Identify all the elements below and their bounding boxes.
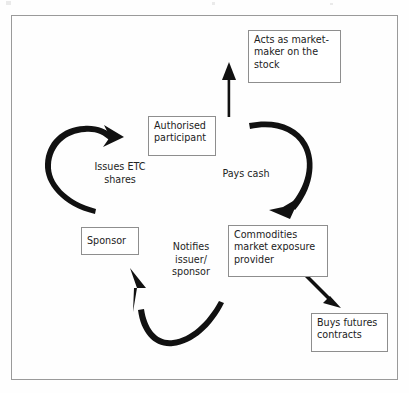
node-authorised-participant[interactable]: Authorised participant [148, 116, 216, 156]
edge-label-notifies-issuer-sponsor: Notifies issuer/ sponsor [155, 241, 227, 279]
diagram-canvas: Acts as market- maker on the stock Autho… [0, 0, 409, 393]
scan-artifact [6, 1, 11, 5]
node-sponsor[interactable]: Sponsor [81, 227, 139, 255]
edge-label-pays-cash: Pays cash [200, 168, 292, 181]
node-market-maker[interactable]: Acts as market- maker on the stock [248, 30, 341, 83]
scan-artifact [212, 2, 215, 5]
edge-label-issues-etc-shares: Issues ETC shares [72, 161, 168, 186]
node-commodities-provider[interactable]: Commodities market exposure provider [228, 225, 328, 277]
scan-artifact [330, 3, 333, 5]
node-buys-futures[interactable]: Buys futures contracts [311, 313, 388, 352]
